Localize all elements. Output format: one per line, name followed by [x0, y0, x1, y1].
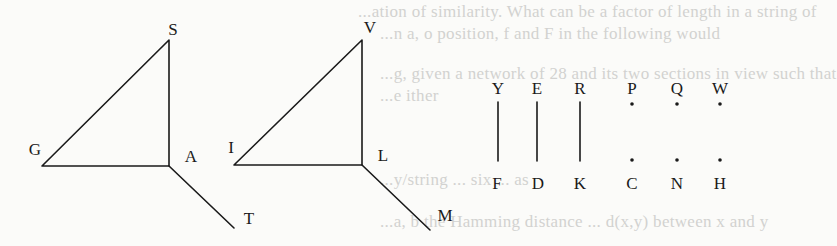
label-m: M [437, 207, 452, 224]
triangle-sga [42, 40, 169, 166]
tail-a-t [169, 166, 234, 228]
label-r: R [574, 80, 585, 97]
dot-p [630, 102, 634, 106]
label-g: G [29, 141, 41, 158]
label-w: W [712, 80, 728, 97]
label-a: A [185, 148, 197, 165]
label-q: Q [671, 80, 683, 97]
label-s: S [168, 21, 177, 38]
dot-w [718, 102, 722, 106]
label-l: L [378, 147, 388, 164]
label-h: H [714, 175, 726, 192]
label-i: I [228, 139, 234, 156]
triangle-vil [234, 40, 362, 165]
dot-n [675, 158, 679, 162]
dot-q [675, 102, 679, 106]
label-t: T [244, 210, 254, 227]
label-e: E [532, 80, 542, 97]
label-f: F [492, 175, 501, 192]
label-d: D [532, 175, 544, 192]
label-k: K [574, 175, 586, 192]
label-p: P [627, 80, 636, 97]
dot-c [630, 158, 634, 162]
dot-h [718, 158, 722, 162]
label-n: N [671, 175, 683, 192]
label-y: Y [492, 80, 504, 97]
label-c: C [626, 175, 637, 192]
label-v: V [364, 19, 376, 36]
tail-l-m [362, 165, 430, 230]
